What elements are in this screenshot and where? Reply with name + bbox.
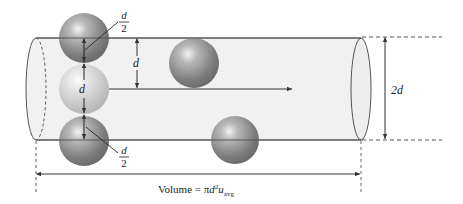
label-center-diameter: d <box>79 82 86 96</box>
collision-cylinder-diagram: d 2 d 2 d d 2d Volume = πd2uavg <box>0 0 463 204</box>
svg-text:2: 2 <box>121 22 127 34</box>
svg-text:d: d <box>121 9 127 21</box>
label-side-distance: d <box>133 56 140 70</box>
sphere-inside-top <box>169 38 219 88</box>
volume-formula: Volume = πd2uavg <box>158 183 234 198</box>
svg-text:2: 2 <box>121 157 127 169</box>
label-cylinder-diameter: 2d <box>391 83 404 97</box>
label-half-d-top: d 2 <box>119 9 129 34</box>
label-half-d-bottom: d 2 <box>119 144 129 169</box>
svg-text:d: d <box>121 144 127 156</box>
